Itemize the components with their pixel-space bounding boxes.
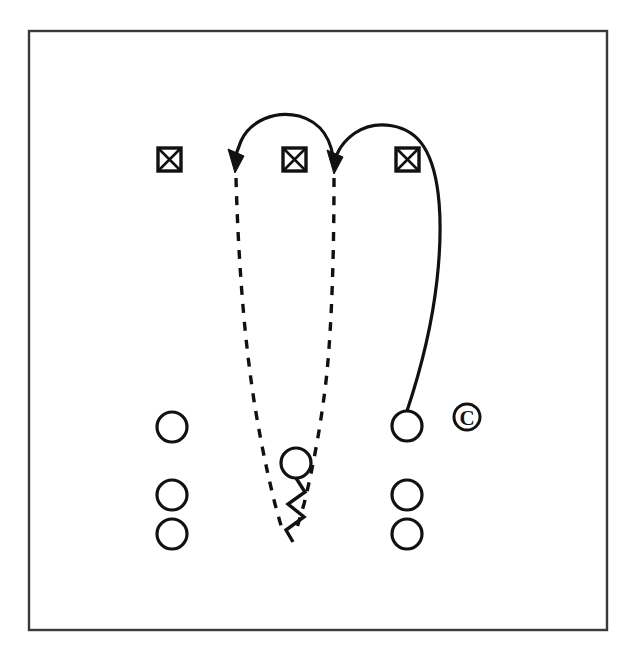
- offense-left-3: [157, 519, 187, 549]
- offense-right-3: [392, 519, 422, 549]
- figure-frame: [29, 31, 607, 630]
- route-center-zigzag: [286, 478, 305, 542]
- arrowhead-right-arc-icon: [327, 150, 343, 174]
- defender-middle: [283, 148, 306, 171]
- offense-right-2: [392, 480, 422, 510]
- offense-center: [281, 448, 311, 478]
- figure-root: C: [0, 0, 638, 669]
- offense-right-1: [392, 411, 422, 441]
- route-right-dashed: [296, 178, 334, 532]
- route-right-arc: [334, 125, 440, 411]
- offense-left-2: [157, 480, 187, 510]
- arrowhead-left-arc-icon: [228, 149, 244, 173]
- copyright-mark: C: [454, 404, 480, 430]
- defender-right: [396, 148, 419, 171]
- copyright-letter: C: [459, 406, 474, 430]
- play-diagram-canvas: C: [0, 0, 638, 669]
- route-left-dashed: [236, 178, 283, 534]
- defender-left: [158, 148, 181, 171]
- offense-left-1: [157, 412, 187, 442]
